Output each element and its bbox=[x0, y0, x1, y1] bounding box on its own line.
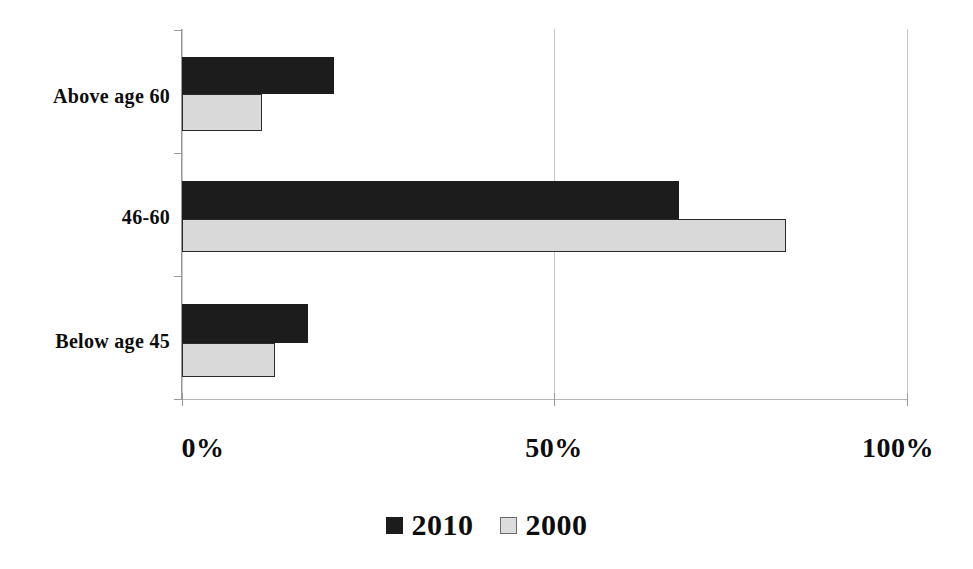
bar-above-age-60-2010 bbox=[182, 57, 334, 94]
value-tick-100 bbox=[907, 393, 908, 406]
legend-label-2010: 2010 bbox=[412, 510, 474, 540]
value-tick-50 bbox=[554, 393, 555, 406]
category-label-above-age-60: Above age 60 bbox=[0, 85, 170, 108]
category-tick-1 bbox=[174, 153, 182, 154]
category-tick-top bbox=[174, 30, 182, 31]
value-axis-line bbox=[182, 399, 908, 400]
legend-swatch-outlined-square-icon bbox=[500, 517, 517, 534]
category-tick-2 bbox=[174, 276, 182, 277]
legend-item-2000: 2000 bbox=[500, 510, 588, 540]
chart-legend: 2010 2000 bbox=[0, 510, 973, 540]
bar-chart: Above age 60 46-60 Below age 45 0% 50% 1… bbox=[0, 0, 973, 569]
value-tick-label-0: 0% bbox=[182, 432, 225, 464]
legend-label-2000: 2000 bbox=[526, 510, 588, 540]
value-tick-0 bbox=[182, 393, 183, 406]
value-tick-label-100: 100% bbox=[862, 432, 934, 464]
value-tick-label-50: 50% bbox=[525, 432, 583, 464]
bar-46-60-2000 bbox=[182, 219, 786, 252]
bar-below-age-45-2000 bbox=[182, 343, 275, 377]
bar-above-age-60-2000 bbox=[182, 94, 262, 131]
legend-swatch-filled-square-icon bbox=[386, 517, 403, 534]
bar-below-age-45-2010 bbox=[182, 304, 308, 343]
category-label-46-60: 46-60 bbox=[0, 206, 170, 229]
category-tick-bottom bbox=[174, 399, 182, 400]
category-label-below-age-45: Below age 45 bbox=[0, 330, 170, 353]
legend-item-2010: 2010 bbox=[386, 510, 474, 540]
gridline-100 bbox=[907, 29, 908, 400]
bar-46-60-2010 bbox=[182, 181, 679, 219]
